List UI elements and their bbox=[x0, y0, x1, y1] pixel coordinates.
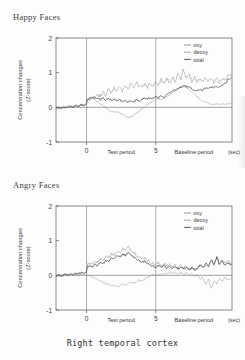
svg-text:0: 0 bbox=[85, 315, 89, 322]
svg-text:1: 1 bbox=[48, 237, 52, 244]
svg-text:oxy: oxy bbox=[194, 210, 203, 216]
chart-title-angry-faces: Angry Faces bbox=[13, 180, 60, 190]
svg-text:0: 0 bbox=[48, 272, 52, 279]
svg-text:Test period: Test period bbox=[107, 149, 134, 155]
svg-text:Baseline period: Baseline period bbox=[175, 317, 214, 323]
svg-text:oxy: oxy bbox=[194, 42, 203, 48]
line-chart-happy-faces: -101205Test periodBaseline period(sec)Co… bbox=[0, 30, 245, 175]
svg-text:(sec): (sec) bbox=[228, 149, 240, 155]
svg-text:(Z-score): (Z-score) bbox=[25, 246, 31, 270]
svg-text:5: 5 bbox=[154, 315, 158, 322]
svg-text:2: 2 bbox=[48, 35, 52, 42]
svg-text:0: 0 bbox=[48, 104, 52, 111]
figure-caption: Right temporal cortex bbox=[0, 338, 245, 348]
plot-area-angry-faces: -101205Test periodBaseline period(sec)Co… bbox=[0, 198, 245, 343]
svg-text:-1: -1 bbox=[46, 307, 52, 314]
svg-text:Baseline period: Baseline period bbox=[175, 149, 214, 155]
plot-area-happy-faces: -101205Test periodBaseline period(sec)Co… bbox=[0, 30, 245, 175]
chart-title-happy-faces: Happy Faces bbox=[13, 12, 60, 22]
svg-text:deoxy: deoxy bbox=[194, 217, 209, 223]
svg-text:-1: -1 bbox=[46, 139, 52, 146]
svg-text:5: 5 bbox=[154, 147, 158, 154]
svg-text:(Z-score): (Z-score) bbox=[25, 78, 31, 102]
svg-text:Concentration changes: Concentration changes bbox=[17, 60, 23, 120]
svg-text:(sec): (sec) bbox=[228, 317, 240, 323]
svg-text:0: 0 bbox=[85, 147, 89, 154]
svg-text:deoxy: deoxy bbox=[194, 49, 209, 55]
svg-text:1: 1 bbox=[48, 69, 52, 76]
svg-text:total: total bbox=[194, 57, 204, 63]
svg-text:Concentration changes: Concentration changes bbox=[17, 228, 23, 288]
svg-text:2: 2 bbox=[48, 203, 52, 210]
svg-text:Test period: Test period bbox=[107, 317, 134, 323]
svg-text:total: total bbox=[194, 225, 204, 231]
line-chart-angry-faces: -101205Test periodBaseline period(sec)Co… bbox=[0, 198, 245, 343]
